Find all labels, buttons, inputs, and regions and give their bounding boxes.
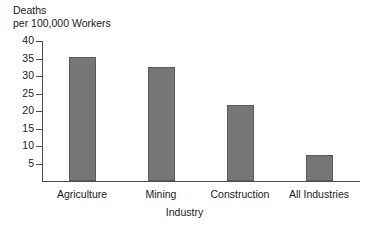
y-axis-tick	[36, 41, 42, 42]
x-axis-category-label: Construction	[201, 188, 280, 200]
x-axis-category-label: All Industries	[280, 188, 359, 200]
bar	[69, 57, 96, 181]
y-axis-tick-label: 30	[12, 70, 34, 81]
y-axis-tick-label-text: 10	[14, 140, 34, 151]
y-axis-tick	[36, 129, 42, 130]
y-axis-tick	[36, 59, 42, 60]
y-axis-tick	[36, 76, 42, 77]
y-axis-tick-label-text: 35	[14, 53, 34, 64]
y-axis-tick-label: 15	[12, 123, 34, 134]
bar-chart: Deaths per 100,000 Workers 4035302520151…	[0, 0, 369, 229]
y-axis-tick-label: 5	[12, 158, 34, 169]
y-axis-tick-label: 25	[12, 88, 34, 99]
bar	[148, 67, 175, 181]
y-axis-tick-label: 40	[12, 35, 34, 46]
y-axis-tick	[36, 164, 42, 165]
y-axis-tick-label-text: 15	[14, 123, 34, 134]
y-axis-tick	[36, 111, 42, 112]
x-axis-category-label: Agriculture	[43, 188, 122, 200]
bar	[227, 105, 254, 181]
y-axis-tick-label: 35	[12, 53, 34, 64]
y-axis-tick-label: 10	[12, 140, 34, 151]
y-axis-tick-label-text: 40	[14, 35, 34, 46]
plot-area: 403530252015105 AgricultureMiningConstru…	[0, 0, 369, 229]
y-axis-tick	[36, 94, 42, 95]
bar	[306, 155, 333, 181]
y-axis-tick-label-text: 20	[14, 105, 34, 116]
x-axis-category-label: Mining	[122, 188, 201, 200]
y-axis-tick-label-text: 30	[14, 70, 34, 81]
x-axis-line	[42, 181, 360, 182]
y-axis-tick	[36, 146, 42, 147]
x-axis-title: Industry	[0, 206, 369, 218]
y-axis-tick-label-text: 25	[14, 88, 34, 99]
y-axis-line	[42, 41, 43, 182]
y-axis-tick-label-text: 5	[14, 158, 34, 169]
y-axis-tick-label: 20	[12, 105, 34, 116]
